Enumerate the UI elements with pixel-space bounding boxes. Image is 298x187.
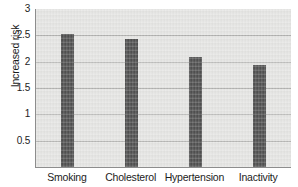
y-axis-tick-label: 2 (0, 57, 30, 67)
y-axis-tick-label: 1.5 (0, 83, 30, 93)
bar-chart: Increased risk 32.521.510.5 SmokingChole… (0, 0, 298, 187)
bar (125, 39, 138, 168)
y-axis-tick-labels: 32.521.510.5 (0, 0, 33, 187)
x-axis-category-labels: SmokingCholesterolHypertensionInactivity (35, 170, 290, 187)
plot-area (35, 9, 291, 168)
y-axis-tick-label: 1 (0, 109, 30, 119)
x-axis-category-label: Hypertension (163, 170, 227, 185)
x-axis-category-label: Smoking (35, 170, 99, 185)
x-axis-category-label: Cholesterol (99, 170, 163, 185)
bar (253, 65, 266, 167)
bar (189, 57, 202, 167)
y-axis-tick-label: 0.5 (0, 136, 30, 146)
x-axis-category-label: Inactivity (226, 170, 290, 185)
bar (61, 34, 74, 167)
y-axis-tick-label: 3 (0, 4, 30, 14)
y-axis-tick-label: 2.5 (0, 30, 30, 40)
